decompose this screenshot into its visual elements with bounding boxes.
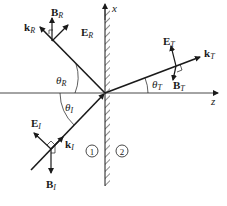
svg-text:2: 2 xyxy=(120,147,125,157)
b-incident-label: BI xyxy=(46,178,56,192)
b-reflected-label: BR xyxy=(51,6,63,20)
em-wave-interface-diagram: x z kI EI BI θI kR BR ER θR xyxy=(0,0,227,206)
region-2-marker: 2 xyxy=(116,145,128,157)
x-axis-label: x xyxy=(111,2,117,14)
svg-text:1: 1 xyxy=(90,147,95,157)
reflected-wave xyxy=(40,18,105,93)
e-transmitted-label: ET xyxy=(163,35,175,49)
b-transmitted-label: BT xyxy=(173,79,185,93)
k-incident-label: kI xyxy=(65,138,74,152)
interface-wall xyxy=(105,8,110,186)
theta-transmitted-label: θT xyxy=(152,78,162,92)
e-incident-label: EI xyxy=(31,117,41,131)
k-reflected-label: kR xyxy=(24,21,35,35)
z-axis-label: z xyxy=(210,95,216,107)
e-reflected-label: ER xyxy=(81,26,93,40)
region-1-marker: 1 xyxy=(86,145,98,157)
k-transmitted-label: kT xyxy=(204,47,215,61)
theta-reflected-label: θR xyxy=(56,74,66,88)
theta-incident-label: θI xyxy=(65,101,73,115)
